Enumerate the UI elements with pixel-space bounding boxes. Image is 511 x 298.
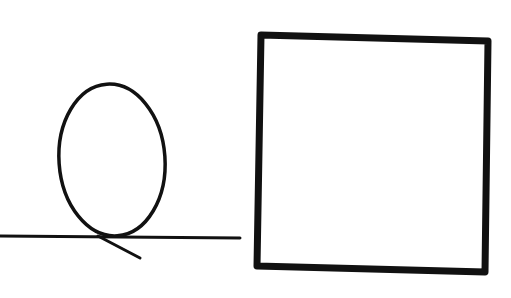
drawing-canvas — [0, 0, 511, 298]
loop-tail — [98, 236, 140, 258]
loop-ellipse — [54, 80, 170, 239]
square — [257, 35, 488, 272]
loop-figure — [0, 80, 240, 258]
